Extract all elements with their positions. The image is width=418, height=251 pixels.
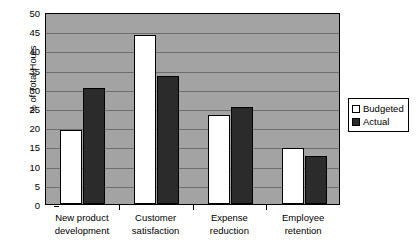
x-axis-label: Expensereduction — [193, 211, 267, 237]
bar-actual — [305, 156, 327, 204]
y-axis-tick-label: 50 — [14, 9, 40, 19]
chart-legend: BudgetedActual — [348, 98, 409, 132]
y-axis-tick-label: 0 — [14, 201, 40, 211]
x-axis-label-line: New product — [55, 212, 108, 223]
y-axis-tick-label: 45 — [14, 28, 40, 38]
y-axis-tick-labels: 05101520253035404550 — [14, 14, 40, 205]
x-axis-tick-mark — [119, 205, 120, 210]
y-axis-tick-label: 40 — [14, 48, 40, 58]
bar-budgeted — [60, 130, 82, 204]
x-axis-label: Employeeretention — [266, 211, 340, 237]
x-axis-tick-mark — [193, 205, 194, 210]
y-axis-tick-label: 5 — [14, 182, 40, 192]
bar-actual — [157, 76, 179, 204]
y-axis-tick-label: 10 — [14, 163, 40, 173]
y-axis-tick-label: 15 — [14, 144, 40, 154]
bar-chart-figure: % of Total Hours 05101520253035404550 Ne… — [0, 0, 418, 251]
bar-budgeted — [208, 115, 230, 204]
legend-label: Budgeted — [363, 104, 404, 114]
x-axis-tick-mark — [266, 205, 267, 210]
x-axis-label-line: reduction — [193, 224, 267, 237]
y-axis-tick-label: 30 — [14, 86, 40, 96]
bar-budgeted — [134, 35, 156, 204]
bar-actual — [231, 107, 253, 204]
x-axis-label-line: satisfaction — [119, 224, 193, 237]
x-axis-label: New productdevelopment — [45, 211, 119, 237]
x-axis-label-line: retention — [266, 224, 340, 237]
bars-layer — [46, 14, 339, 204]
x-axis-label-line: Expense — [211, 212, 248, 223]
bar-budgeted — [282, 148, 304, 204]
plot-area — [45, 13, 340, 205]
x-axis-label-line: development — [45, 224, 119, 237]
legend-label: Actual — [363, 117, 389, 127]
y-axis-tick-label: 20 — [14, 124, 40, 134]
x-axis-label: Customersatisfaction — [119, 211, 193, 237]
x-axis-labels: New productdevelopmentCustomersatisfacti… — [45, 208, 340, 248]
y-axis-tick-label: 25 — [14, 105, 40, 115]
legend-item: Actual — [352, 115, 404, 128]
x-axis-label-line: Employee — [282, 212, 324, 223]
legend-swatch-budgeted-icon — [352, 105, 360, 113]
legend-item: Budgeted — [352, 102, 404, 115]
y-axis-tick-mark — [54, 206, 59, 207]
x-axis-label-line: Customer — [135, 212, 176, 223]
legend-swatch-actual-icon — [352, 118, 360, 126]
bar-actual — [83, 88, 105, 204]
y-axis-tick-label: 35 — [14, 67, 40, 77]
